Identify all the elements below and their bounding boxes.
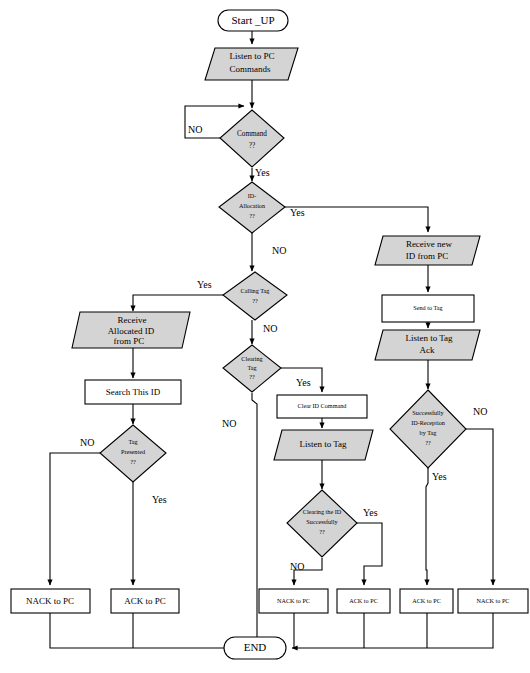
node-listen-to-tag[interactable]: Listen to Tag — [274, 430, 373, 460]
node-recvalloc-line3: from PC — [114, 336, 145, 346]
label-tagpresented-yes: Yes — [152, 494, 167, 505]
node-end-label: END — [244, 641, 267, 653]
label-reception-yes: Yes — [432, 471, 447, 482]
node-clearingtag-line2: Tag — [247, 364, 256, 371]
node-nack-1-label: NACK to PC — [26, 596, 74, 606]
edge-idalloc-yes — [283, 207, 428, 232]
node-receive-allocated-id[interactable]: Receive Allocated ID from PC — [72, 312, 190, 348]
node-clearingtag-line1: Clearing — [241, 355, 262, 362]
label-command-no: NO — [188, 124, 202, 135]
node-clearing-id-decision[interactable]: Clearing the ID Successfully ?? — [287, 490, 357, 557]
node-tag-presented-decision[interactable]: Tag Presented ?? — [100, 425, 166, 482]
node-listenack-line2: Ack — [420, 345, 435, 355]
node-success-line3: by Tag — [420, 429, 437, 436]
node-listen-tag-ack[interactable]: Listen to Tag Ack — [375, 330, 480, 360]
node-clearing-tag-decision[interactable]: Clearing Tag ?? — [223, 345, 281, 392]
node-receive-new-id[interactable]: Receive new ID from PC — [375, 236, 480, 265]
node-listenack-line1: Listen to Tag — [405, 333, 453, 343]
node-clearingid-line1: Clearing the ID — [303, 508, 342, 515]
node-nack-2-label: NACK to PC — [277, 597, 310, 604]
node-start-label: Start _UP — [231, 14, 274, 26]
node-nack-3[interactable]: NACK to PC — [458, 589, 528, 613]
node-ack-3[interactable]: ACK to PC — [400, 589, 453, 613]
node-nack-2[interactable]: NACK to PC — [259, 589, 328, 613]
node-nack-3-label: NACK to PC — [476, 597, 509, 604]
node-tagpresented-line2: Presented — [121, 448, 146, 455]
edge-tagpresented-no — [50, 453, 101, 585]
edge-success-no — [465, 429, 493, 585]
node-listen-pc-line2: Commands — [229, 64, 270, 74]
edge-nack3-to-end — [292, 613, 493, 648]
label-idalloc-no: NO — [272, 245, 286, 256]
node-ack-1[interactable]: ACK to PC — [111, 589, 179, 613]
node-ack-2[interactable]: ACK to PC — [337, 589, 390, 613]
node-clearid-label: Clear ID Command — [298, 402, 348, 409]
node-idalloc-line1: ID- — [248, 192, 257, 199]
edge-success-yes — [426, 468, 428, 585]
label-tagpresented-no: NO — [80, 437, 94, 448]
label-clearingtag-yes: Yes — [296, 377, 311, 388]
edge-clearingid-yes — [356, 523, 382, 585]
edge-nack1-to-end — [50, 613, 243, 648]
node-recvalloc-line2: Allocated ID — [108, 326, 155, 336]
node-success-line1: Successfully — [412, 409, 444, 416]
label-callingtag-no: NO — [263, 323, 277, 334]
node-recvalloc-line1: Receive — [118, 315, 147, 325]
node-send-to-tag[interactable]: Send to Tag — [382, 295, 474, 322]
edge-callingtag-yes — [133, 295, 225, 311]
node-start[interactable]: Start _UP — [218, 10, 288, 31]
label-clearingid-yes: Yes — [363, 507, 378, 518]
node-clearingid-line2: Successfully — [306, 518, 338, 525]
node-success-line2: ID-Reception — [411, 419, 445, 426]
node-recvnew-line2: ID from PC — [406, 251, 449, 261]
label-command-yes: Yes — [255, 167, 270, 178]
node-sendtotag-label: Send to Tag — [413, 304, 442, 311]
node-tagpresented-line3: ?? — [130, 458, 136, 465]
node-ack-3-label: ACK to PC — [412, 597, 441, 604]
label-callingtag-yes: Yes — [197, 279, 212, 290]
node-callingtag-line1: Calling Tag — [241, 287, 270, 294]
label-idalloc-yes: Yes — [290, 207, 305, 218]
flowchart-canvas: Start _UP Listen to PC Commands Command … — [0, 0, 530, 673]
node-clear-id-command[interactable]: Clear ID Command — [277, 395, 367, 418]
node-command-decision[interactable]: Command ?? — [220, 110, 284, 167]
node-idalloc-line2: Allocation — [239, 202, 265, 209]
node-end[interactable]: END — [224, 637, 286, 659]
node-listen-pc-commands[interactable]: Listen to PC Commands — [205, 48, 298, 80]
node-tagpresented-line1: Tag — [128, 438, 137, 445]
node-command-line2: ?? — [249, 142, 255, 150]
node-ack-2-label: ACK to PC — [349, 597, 378, 604]
edge-clearingtag-no — [252, 393, 257, 645]
node-search-this-id[interactable]: Search This ID — [85, 380, 181, 404]
node-callingtag-line2: ?? — [252, 297, 258, 304]
node-idalloc-line3: ?? — [249, 212, 255, 219]
node-listen-pc-line1: Listen to PC — [229, 51, 274, 61]
node-id-allocation-decision[interactable]: ID- Allocation ?? — [219, 182, 285, 233]
label-reception-no: NO — [473, 406, 487, 417]
label-clearingid-no: NO — [290, 561, 304, 572]
node-ack-1-label: ACK to PC — [124, 596, 166, 606]
node-nack-1[interactable]: NACK to PC — [11, 589, 90, 613]
node-recvnew-line1: Receive new — [406, 239, 453, 249]
node-clearingid-line3: ?? — [319, 528, 325, 535]
node-success-line4: ?? — [425, 439, 431, 446]
node-search-label: Search This ID — [106, 387, 161, 397]
node-command-line1: Command — [237, 130, 267, 138]
node-listentotag-label: Listen to Tag — [299, 439, 347, 449]
node-clearingtag-line3: ?? — [249, 373, 255, 380]
node-calling-tag-decision[interactable]: Calling Tag ?? — [223, 272, 287, 320]
node-success-reception-decision[interactable]: Successfully ID-Reception by Tag ?? — [390, 390, 466, 468]
label-clearingtag-no: NO — [222, 418, 236, 429]
